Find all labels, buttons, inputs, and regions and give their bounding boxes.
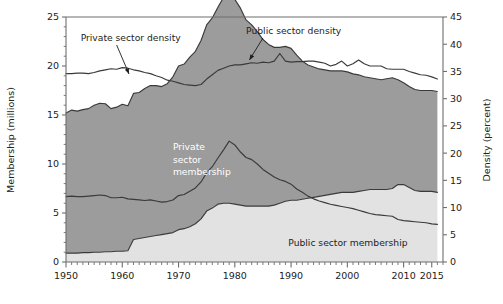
x-tick-label: 2000 [335, 270, 359, 281]
private-sector-membership-label: membership [173, 166, 231, 177]
y-tick-label: 25 [47, 11, 59, 22]
y-axis-title-text: Membership (millions) [5, 87, 16, 193]
y-tick-label: 0 [53, 256, 59, 267]
private-sector-density-label: Private sector density [81, 32, 182, 43]
y2-tick-label: 45 [450, 11, 462, 22]
y2-tick-label: 30 [450, 93, 462, 104]
y2-axis-title: Density (percent) [481, 99, 492, 182]
y-tick-label: 5 [53, 207, 59, 218]
x-tick-label: 2015 [420, 270, 444, 281]
y2-tick-label: 25 [450, 120, 462, 131]
y-tick-label: 10 [47, 158, 59, 169]
x-tick-label: 1950 [54, 270, 78, 281]
private-sector-membership-label: Private [173, 141, 205, 152]
x-tick-label: 1980 [223, 270, 247, 281]
x-tick-label: 2010 [392, 270, 416, 281]
private-sector-membership-label: sector [173, 154, 202, 165]
public-sector-density-label: Public sector density [246, 25, 342, 36]
y2-tick-label: 0 [450, 256, 456, 267]
y2-axis-title-text: Density (percent) [481, 99, 492, 182]
public-sector-membership-label: Public sector membership [288, 237, 407, 248]
x-tick-label: 1960 [110, 270, 134, 281]
x-tick-label: 1970 [166, 270, 190, 281]
x-tick-label: 1990 [279, 270, 303, 281]
chart-figure: 0510152025051015202530354045195019601970… [0, 0, 503, 304]
y-tick-label: 20 [47, 60, 59, 71]
y2-tick-label: 20 [450, 148, 462, 159]
y2-tick-label: 35 [450, 66, 462, 77]
y2-tick-label: 10 [450, 202, 462, 213]
y2-tick-label: 15 [450, 175, 462, 186]
y2-tick-label: 5 [450, 229, 456, 240]
y2-tick-label: 40 [450, 39, 462, 50]
y-axis-title: Membership (millions) [5, 87, 16, 193]
union-membership-density-chart: 0510152025051015202530354045195019601970… [0, 0, 503, 304]
y-tick-label: 15 [47, 109, 59, 120]
